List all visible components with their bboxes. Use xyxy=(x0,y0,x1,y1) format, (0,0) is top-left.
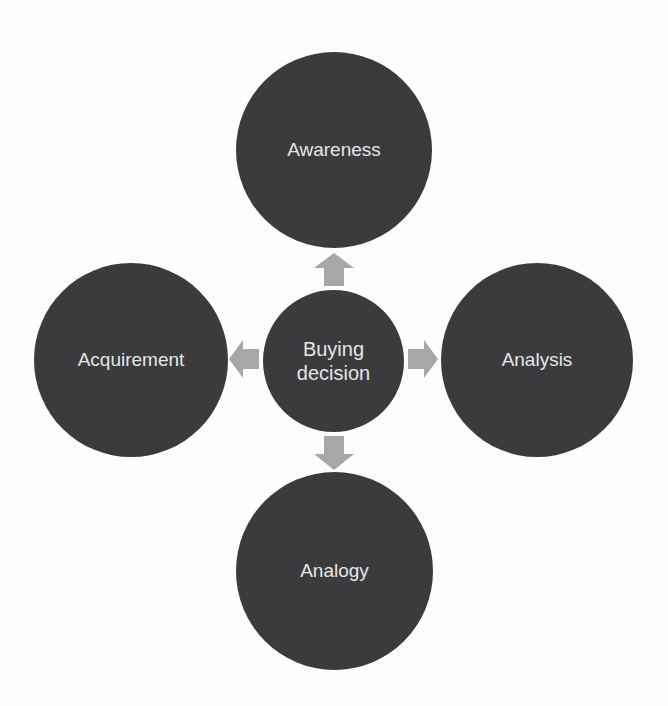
node-label: Analogy xyxy=(300,560,369,583)
diagram-canvas: Awareness Acquirement Analysis Analogy B… xyxy=(0,0,668,706)
node-label: Acquirement xyxy=(78,349,185,372)
center-label-line-2: decision xyxy=(297,361,370,385)
arrow-down-icon xyxy=(314,436,354,470)
node-buying-decision: Buying decision xyxy=(263,290,404,432)
center-label-line-1: Buying xyxy=(297,337,370,361)
node-awareness: Awareness xyxy=(236,52,432,248)
node-label: Analysis xyxy=(502,349,573,372)
arrow-right-icon xyxy=(408,340,438,378)
node-acquirement: Acquirement xyxy=(34,263,228,457)
node-analogy: Analogy xyxy=(236,472,433,670)
node-analysis: Analysis xyxy=(441,263,633,457)
arrow-left-icon xyxy=(229,340,259,378)
arrow-up-icon xyxy=(314,253,354,286)
node-label: Awareness xyxy=(287,139,381,162)
